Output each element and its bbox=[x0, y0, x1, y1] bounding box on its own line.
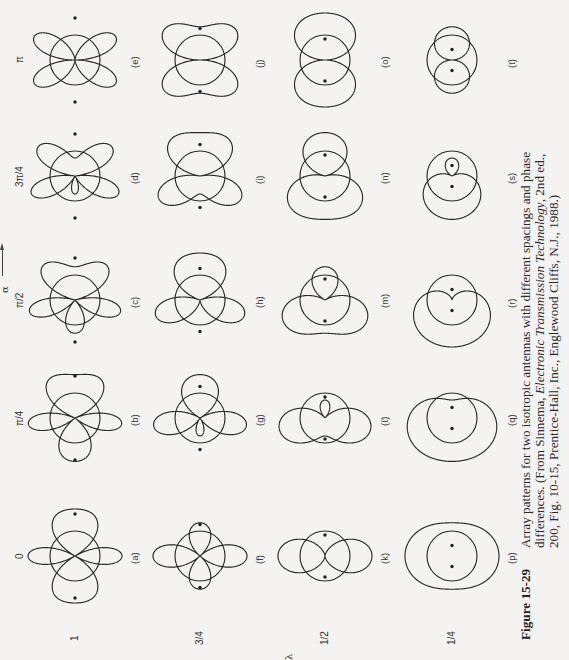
radiation-pattern bbox=[414, 291, 491, 347]
pattern-panel-h bbox=[155, 253, 245, 333]
radiation-pattern bbox=[154, 375, 247, 436]
phase-label: π bbox=[14, 56, 25, 63]
phase-label: π/2 bbox=[14, 293, 25, 308]
radiation-pattern bbox=[405, 523, 499, 589]
pattern-panel-b bbox=[28, 374, 121, 461]
radiation-pattern bbox=[153, 523, 247, 589]
panel-label: (b) bbox=[129, 414, 140, 426]
phase-axis-arrowhead-icon bbox=[0, 243, 4, 250]
reference-circle bbox=[50, 275, 100, 325]
antenna-element-dot bbox=[450, 185, 453, 188]
antenna-element-dot bbox=[450, 69, 453, 72]
spacing-label: 3/4 bbox=[194, 631, 205, 645]
pattern-panel-a bbox=[28, 509, 122, 603]
panel-label: (k) bbox=[379, 553, 390, 564]
pattern-panel-r bbox=[414, 275, 491, 347]
pattern-panel-q bbox=[407, 393, 497, 461]
antenna-element-dot bbox=[450, 427, 453, 430]
antenna-element-dot bbox=[198, 143, 201, 146]
panel-label: (a) bbox=[129, 552, 140, 564]
antenna-element-dot bbox=[73, 596, 76, 599]
pattern-panel-j bbox=[162, 24, 238, 97]
radiation-pattern bbox=[34, 33, 117, 87]
caption-line-2-tail: , 2nd ed., bbox=[532, 154, 547, 203]
antenna-element-dot bbox=[73, 512, 76, 515]
antenna-element-dot bbox=[450, 565, 453, 568]
antenna-element-dot bbox=[323, 195, 326, 198]
caption-book-title: Electronic Transmission Technology bbox=[532, 202, 547, 394]
antenna-element-dot bbox=[73, 374, 76, 377]
antenna-element-dot bbox=[323, 575, 326, 578]
panel-label: (f) bbox=[254, 555, 265, 564]
phase-axis-label: α bbox=[0, 286, 10, 293]
pattern-panel-c bbox=[29, 256, 120, 343]
caption-line-2-head: differences. (From Sinnema, bbox=[532, 394, 547, 548]
panel-label: (o) bbox=[379, 56, 390, 68]
antenna-element-dot bbox=[73, 458, 76, 461]
reference-circle bbox=[50, 393, 100, 443]
antenna-element-dot bbox=[198, 27, 201, 30]
phase-label: 3π/4 bbox=[14, 166, 25, 187]
reference-circle bbox=[427, 531, 477, 581]
pattern-panel-o bbox=[294, 13, 355, 107]
antenna-element-dot bbox=[323, 277, 326, 280]
panel-label: (r) bbox=[506, 299, 517, 309]
pattern-panel-e bbox=[34, 16, 117, 103]
pattern-panel-ℓ bbox=[279, 393, 371, 443]
panel-label: (g) bbox=[254, 414, 265, 426]
caption-line-2: differences. (From Sinnema, Electronic T… bbox=[532, 154, 547, 548]
spacing-label: 1 bbox=[69, 635, 80, 641]
spacing-axis-label: λ bbox=[283, 654, 294, 660]
antenna-element-dot bbox=[198, 206, 201, 209]
panels-layer bbox=[28, 13, 499, 603]
antenna-element-dot bbox=[323, 79, 326, 82]
radiation-pattern bbox=[282, 267, 368, 334]
spacing-label: 1/4 bbox=[446, 631, 457, 645]
antenna-element-dot bbox=[198, 523, 201, 526]
caption-line-3: 200, Fig. 10-15, Prentice-Hall, Inc., En… bbox=[546, 195, 561, 548]
phase-label: π/4 bbox=[14, 411, 25, 426]
pattern-panel-m bbox=[282, 267, 368, 334]
antenna-element-dot bbox=[73, 132, 76, 135]
panel-label: (c) bbox=[129, 297, 140, 308]
pattern-panel-g bbox=[154, 375, 247, 452]
panel-label: (t) bbox=[506, 59, 517, 68]
pattern-panel-i bbox=[158, 133, 242, 210]
panel-label: (m) bbox=[379, 294, 390, 308]
radiation-pattern bbox=[155, 253, 245, 323]
phase-axis-arrow bbox=[2, 248, 3, 276]
spacing-label: 1/2 bbox=[319, 631, 330, 645]
panel-label: (d) bbox=[129, 172, 140, 184]
antenna-element-dot bbox=[450, 164, 453, 167]
antenna-element-dot bbox=[323, 533, 326, 536]
panel-label: (j) bbox=[254, 60, 265, 68]
pattern-panel-n bbox=[287, 133, 362, 220]
figure-number: Figure 15-29 bbox=[519, 548, 533, 640]
radiation-pattern bbox=[28, 509, 122, 603]
panel-label: (p) bbox=[506, 552, 517, 564]
radiation-pattern bbox=[278, 539, 372, 573]
antenna-element-dot bbox=[73, 256, 76, 259]
radiation-pattern bbox=[29, 262, 120, 333]
radiation-pattern bbox=[294, 13, 355, 107]
antenna-element-dot bbox=[198, 586, 201, 589]
antenna-element-dot bbox=[450, 406, 453, 409]
antenna-element-dot bbox=[323, 37, 326, 40]
antenna-element-dot bbox=[323, 153, 326, 156]
pattern-panel-p bbox=[405, 523, 499, 589]
panel-label: (q) bbox=[506, 414, 517, 426]
panel-label: (s) bbox=[506, 173, 517, 184]
antenna-element-dot bbox=[323, 437, 326, 440]
antenna-element-dot bbox=[198, 267, 201, 270]
antenna-element-dot bbox=[450, 309, 453, 312]
pattern-panel-f bbox=[153, 523, 247, 589]
reference-circle bbox=[175, 531, 225, 581]
antenna-element-dot bbox=[450, 288, 453, 291]
antenna-element-dot bbox=[73, 100, 76, 103]
panel-label: (i) bbox=[254, 176, 265, 184]
antenna-element-dot bbox=[198, 448, 201, 451]
antenna-element-dot bbox=[323, 395, 326, 398]
panel-label: (ℓ) bbox=[379, 417, 390, 426]
antenna-element-dot bbox=[450, 544, 453, 547]
antenna-element-dot bbox=[323, 319, 326, 322]
